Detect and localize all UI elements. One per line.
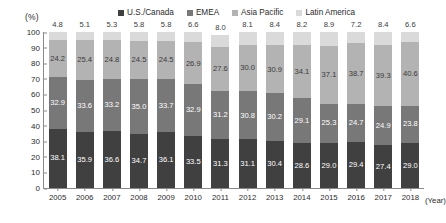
bar-segment[interactable]: 5.1 [76,32,94,40]
bar-column[interactable]: 6.640.623.829.02018 [401,32,419,188]
bar-segment[interactable]: 31.2 [211,91,229,140]
bar-segment[interactable]: 23.8 [401,106,419,143]
bar-segment[interactable]: 24.5 [157,41,175,79]
bar-segment[interactable]: 8.2 [293,32,311,45]
chart-legend: U.S./CanadaEMEAAsia PacificLatin America [118,9,355,17]
bar-value-label: 24.7 [349,119,364,127]
bar-segment[interactable]: 27.6 [211,47,229,90]
bar-column[interactable]: 8.430.930.230.42013 [266,32,284,188]
bar-column[interactable]: 8.937.125.329.02015 [320,32,338,188]
x-axis-tick-label: 2006 [76,193,93,202]
bar-segment[interactable]: 33.2 [103,79,121,131]
bar-segment[interactable]: 27.4 [374,145,392,188]
bar-segment[interactable]: 4.8 [49,32,67,39]
y-axis-tick-label: 30 [18,137,44,146]
bar-segment[interactable]: 32.9 [184,84,202,135]
bar-segment[interactable]: 35.0 [130,79,148,134]
bar-segment[interactable]: 24.7 [347,104,365,143]
bar-segment[interactable]: 7.2 [347,32,365,43]
bar-segment[interactable]: 34.1 [293,45,311,98]
bar-segment[interactable]: 37.1 [320,46,338,104]
bar-value-label: 30.4 [267,160,282,168]
bar-segment[interactable]: 25.3 [320,104,338,143]
bar-value-label: 6.6 [188,21,199,29]
bar-segment[interactable]: 24.8 [103,40,121,79]
bar-segment[interactable]: 26.9 [184,42,202,84]
bar-segment[interactable]: 31.1 [239,139,257,188]
bar-segment[interactable]: 24.5 [130,41,148,79]
x-axis-tick-label: 2007 [103,193,120,202]
bar-segment[interactable]: 8.4 [374,32,392,45]
bar-segment[interactable]: 33.5 [184,136,202,188]
bar-segment[interactable]: 30.9 [266,45,284,93]
bar-column[interactable]: 5.824.535.034.72008 [130,32,148,188]
legend-item[interactable]: U.S./Canada [118,9,174,17]
bar-column[interactable]: 4.824.232.938.12005 [49,32,67,188]
bar-value-label: 5.3 [107,21,118,29]
bar-value-label: 5.8 [161,21,172,29]
bar-column[interactable]: 7.238.724.729.42016 [347,32,365,188]
bar-value-label: 28.6 [294,162,309,170]
bar-column[interactable]: 5.324.833.236.62007 [103,32,121,188]
bar-value-label: 8.1 [242,21,253,29]
bar-segment[interactable]: 5.8 [130,32,148,41]
bar-segment[interactable]: 33.6 [76,80,94,132]
bar-segment[interactable]: 29.4 [347,142,365,188]
bar-segment[interactable]: 39.3 [374,45,392,106]
bar-column[interactable]: 5.125.433.635.92006 [76,32,94,188]
bar-segment[interactable]: 30.2 [266,93,284,140]
bar-segment[interactable]: 30.0 [239,45,257,92]
bar-segment[interactable]: 33.7 [157,79,175,132]
bar-column[interactable]: 8.439.324.927.42017 [374,32,392,188]
bar-segment[interactable]: 31.3 [211,139,229,188]
legend-label: Asia Pacific [241,9,283,17]
bar-segment[interactable]: 24.9 [374,106,392,145]
bar-segment[interactable]: 8.0 [211,35,229,47]
bar-segment[interactable]: 29.1 [293,98,311,143]
bar-column[interactable]: 8.027.631.231.32011 [211,32,229,188]
bar-segment[interactable]: 36.1 [157,132,175,188]
bar-segment[interactable]: 38.1 [49,129,67,188]
legend-item[interactable]: Asia Pacific [232,9,283,17]
bar-segment[interactable]: 8.4 [266,32,284,45]
bar-segment[interactable]: 35.9 [76,132,94,188]
bar-segment[interactable]: 32.9 [49,77,67,128]
bar-segment[interactable]: 5.8 [157,32,175,41]
bar-segment[interactable]: 6.6 [401,32,419,42]
bar-segment[interactable]: 24.2 [49,40,67,78]
bar-segment[interactable]: 38.7 [347,43,365,103]
x-axis-tick-label: 2014 [293,193,310,202]
bar-value-label: 7.2 [351,21,362,29]
bar-segment[interactable]: 40.6 [401,42,419,105]
bar-value-label: 33.7 [159,102,174,110]
bar-column[interactable]: 8.130.030.831.12012 [239,32,257,188]
bar-value-label: 25.4 [77,56,92,64]
bar-segment[interactable]: 28.6 [293,143,311,188]
y-axis-tick-label: 40 [18,121,44,130]
bar-segment[interactable]: 29.0 [320,143,338,188]
bar-value-label: 38.7 [349,70,364,78]
y-axis-unit-label: (%) [25,12,39,22]
bar-segment[interactable]: 36.6 [103,131,121,188]
bar-segment[interactable]: 8.9 [320,32,338,46]
bar-value-label: 35.0 [132,103,147,111]
bar-segment[interactable]: 8.1 [239,32,257,45]
y-axis-tick-label: 80 [18,59,44,68]
bar-column[interactable]: 8.234.129.128.62014 [293,32,311,188]
legend-item[interactable]: EMEA [187,9,219,17]
bar-column[interactable]: 6.626.932.933.52010 [184,32,202,188]
bar-value-label: 24.9 [376,122,391,130]
legend-item[interactable]: Latin America [296,9,355,17]
bar-value-label: 33.2 [104,101,119,109]
bar-column[interactable]: 5.824.533.736.12009 [157,32,175,188]
bar-segment[interactable]: 34.7 [130,134,148,188]
bar-segment[interactable]: 5.3 [103,32,121,40]
legend-label: U.S./Canada [127,9,174,17]
bar-segment[interactable]: 29.0 [401,143,419,188]
bar-segment[interactable]: 25.4 [76,40,94,80]
bar-segment[interactable]: 30.4 [266,141,284,188]
bar-value-label: 31.2 [213,111,228,119]
bar-segment[interactable]: 30.8 [239,91,257,139]
bar-segment[interactable]: 6.6 [184,32,202,42]
